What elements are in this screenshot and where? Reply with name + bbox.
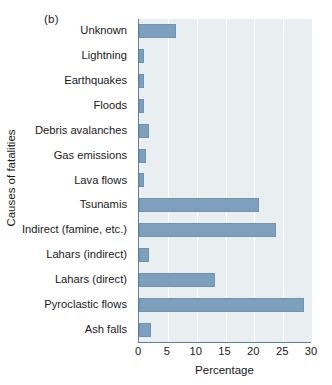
bar <box>139 248 149 262</box>
y-axis-tick-label: Ash falls <box>0 324 133 335</box>
y-axis-tick-label: Earthquakes <box>0 75 133 86</box>
x-axis-tick-label: 15 <box>218 345 230 357</box>
x-axis-tick-label: 5 <box>164 345 170 357</box>
x-axis-tick-label: 30 <box>305 345 317 357</box>
bar-row <box>139 19 312 44</box>
bar-row <box>139 69 312 94</box>
gridline-30 <box>312 19 313 342</box>
y-axis-tick-label: Lava flows <box>0 175 133 186</box>
bar-row <box>139 267 312 292</box>
y-axis-tick-label: Unknown <box>0 25 133 36</box>
y-axis-tick-label: Floods <box>0 100 133 111</box>
y-axis-tick-label: Lightning <box>0 50 133 61</box>
bar <box>139 49 144 63</box>
bar <box>139 173 144 187</box>
bar-row <box>139 44 312 69</box>
y-axis-tick-label: Lahars (direct) <box>0 274 133 285</box>
plot-area <box>138 19 312 342</box>
x-axis-tick-labels: 051015202530 <box>138 345 311 361</box>
x-axis-tick-label: 20 <box>247 345 259 357</box>
y-axis-tick-labels: UnknownLightningEarthquakesFloodsDebris … <box>0 19 133 342</box>
x-axis-title: Percentage <box>138 364 311 376</box>
x-axis-tick-label: 0 <box>135 345 141 357</box>
bar-row <box>139 218 312 243</box>
y-axis-tick-label: Tsunamis <box>0 199 133 210</box>
x-axis-line <box>138 342 311 343</box>
bar-row <box>139 143 312 168</box>
bar-row <box>139 193 312 218</box>
y-axis-tick-label: Indirect (famine, etc.) <box>0 224 133 235</box>
bar <box>139 273 215 287</box>
bar <box>139 198 259 212</box>
bar <box>139 24 176 38</box>
bar-row <box>139 243 312 268</box>
x-axis-tick-label: 10 <box>189 345 201 357</box>
y-axis-tick-label: Gas emissions <box>0 150 133 161</box>
y-axis-tick-label: Lahars (indirect) <box>0 249 133 260</box>
bar <box>139 149 146 163</box>
bar <box>139 323 151 337</box>
bar-row <box>139 317 312 342</box>
x-axis-tick-label: 25 <box>276 345 288 357</box>
bar-row <box>139 94 312 119</box>
bar-row <box>139 168 312 193</box>
bar-row <box>139 118 312 143</box>
bar <box>139 298 304 312</box>
bar <box>139 124 149 138</box>
bar <box>139 74 144 88</box>
bar <box>139 223 276 237</box>
y-axis-tick-label: Pyroclastic flows <box>0 299 133 310</box>
figure-panel-b: (b) Causes of fatalities UnknownLightnin… <box>0 0 332 385</box>
bar <box>139 99 144 113</box>
y-axis-tick-label: Debris avalanches <box>0 125 133 136</box>
bar-row <box>139 292 312 317</box>
